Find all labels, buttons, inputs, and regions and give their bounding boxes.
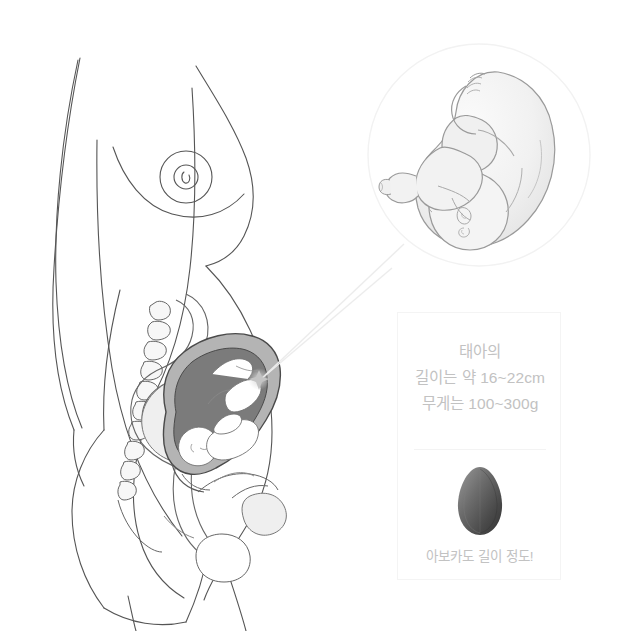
illustration-canvas: 태아의 길이는 약 16~22cm 무게는 100~300g 아보카도 길이 정… bbox=[0, 0, 632, 631]
avocado-caption: 아보카도 길이 정도! bbox=[398, 545, 562, 565]
avocado-icon bbox=[455, 465, 505, 537]
fetus-info-card: 태아의 길이는 약 16~22cm 무게는 100~300g 아보카도 길이 정… bbox=[397, 312, 561, 580]
stat-line-2: 길이는 약 16~22cm bbox=[398, 365, 562, 391]
stat-line-3: 무게는 100~300g bbox=[398, 391, 562, 417]
card-divider bbox=[414, 449, 546, 450]
fetus-foot bbox=[379, 179, 391, 194]
fetus-stats-text: 태아의 길이는 약 16~22cm 무게는 100~300g bbox=[398, 339, 562, 417]
avocado-illustration bbox=[398, 461, 562, 541]
stat-line-1: 태아의 bbox=[398, 339, 562, 365]
